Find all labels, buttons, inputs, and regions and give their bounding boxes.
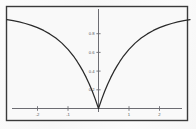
- x-tick-label-1: -1: [66, 112, 70, 117]
- chart-figure: -2 -1 1 2 0.2 0.4 0.6 0.8: [0, 0, 196, 129]
- x-tick-label-0: -2: [36, 112, 40, 117]
- y-tick-label-2: 0.6: [89, 50, 95, 55]
- y-tick-label-1: 0.4: [89, 69, 95, 74]
- plot-canvas: -2 -1 1 2 0.2 0.4 0.6 0.8: [0, 0, 196, 129]
- y-tick-label-3: 0.8: [89, 31, 95, 36]
